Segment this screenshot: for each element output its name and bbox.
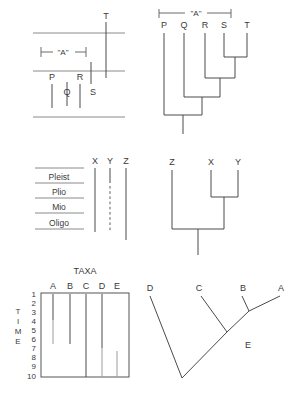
tip-label-r: R [202, 20, 209, 30]
epoch-label-pleist: Pleist [49, 172, 70, 182]
column-label-e: E [114, 281, 120, 291]
epoch-label-mio: Mio [52, 202, 66, 212]
tip-labels-zxy: Z X Y [169, 157, 241, 167]
taxon-label-y: Y [107, 156, 113, 166]
branch-root-to-node1 [182, 332, 227, 378]
branch-e-to-b [242, 296, 249, 311]
epoch-label-oligo: Oligo [49, 218, 69, 228]
chart-title: TAXA [74, 266, 97, 276]
panel-a-canvas: "A" P Q R S T [0, 0, 146, 140]
diagonal-tip-labels: D C B A [147, 283, 284, 293]
taxon-label-s: S [90, 87, 96, 97]
tip-label-a: A [278, 283, 284, 293]
column-label-b: B [67, 281, 73, 291]
time-tick-4: 4 [32, 317, 37, 326]
column-label-a: A [50, 281, 56, 291]
panel-f-canvas: D C B A E [146, 260, 292, 413]
panel-cladogram-zxy: Z X Y [146, 140, 292, 260]
epoch-labels: Pleist Plio Mio Oligo [49, 172, 70, 228]
tip-label-c: C [196, 283, 203, 293]
column-label-d: D [99, 281, 106, 291]
time-axis-letter-t: T [16, 307, 21, 316]
time-axis-letter-m: M [15, 327, 22, 336]
tip-label-y: Y [235, 157, 241, 167]
panel-cladogram-pqrst: "A" P Q R S T [146, 0, 292, 140]
tip-label-d: D [147, 283, 154, 293]
taxon-labels-xyz: X Y Z [92, 156, 129, 166]
column-labels: A B C D E [50, 281, 120, 291]
time-tick-10: 10 [27, 372, 36, 381]
taxon-label-z: Z [123, 156, 129, 166]
branch-node1-to-c [201, 296, 227, 332]
tip-label-t: T [244, 20, 250, 30]
panel-epoch-ranges-xyz: Pleist Plio Mio Oligo X Y Z [0, 140, 146, 260]
time-tick-7: 7 [32, 344, 37, 353]
taxon-label-t: T [103, 11, 109, 21]
time-tick-3: 3 [32, 308, 37, 317]
figure-root: "A" P Q R S T [0, 0, 292, 413]
bracket-a-clado-label: "A" [190, 9, 201, 18]
time-tick-5: 5 [32, 326, 37, 335]
tip-label-z: Z [169, 157, 175, 167]
range-lines-pqrst [52, 22, 106, 108]
time-tick-labels: 1 2 3 4 5 6 7 8 9 10 [27, 290, 36, 381]
time-tick-2: 2 [32, 299, 37, 308]
branch-root-to-d [150, 296, 182, 378]
taxon-label-x: X [92, 156, 98, 166]
panel-diagonal-phylogeny-abcde: D C B A E [146, 260, 292, 413]
epoch-label-plio: Plio [52, 187, 66, 197]
chart-plot-box [41, 293, 129, 377]
taxon-label-q: Q [63, 87, 70, 97]
internal-node-label-e: E [245, 340, 251, 350]
taxon-label-p: P [49, 72, 55, 82]
time-axis-letter-i: I [17, 317, 19, 326]
time-axis-letter-e: E [15, 337, 20, 346]
time-tick-8: 8 [32, 353, 37, 362]
diagonal-branches [150, 296, 280, 378]
taxon-label-r: R [77, 72, 84, 82]
panel-d-canvas: Z X Y [146, 140, 292, 260]
panel-stratigraphic-ranges-pqrst: "A" P Q R S T [0, 0, 146, 140]
bracket-a-clado: "A" [159, 5, 231, 18]
taxon-range-bars [53, 294, 117, 377]
cladogram-branches-pqrst [164, 33, 247, 134]
panel-c-canvas: Pleist Plio Mio Oligo X Y Z [0, 140, 146, 260]
time-tick-1: 1 [32, 290, 37, 299]
time-tick-9: 9 [32, 362, 37, 371]
panel-taxa-time-chart: TAXA T I M E 1 2 3 4 5 6 7 8 9 10 A [0, 260, 146, 413]
tip-label-q: Q [180, 20, 187, 30]
branch-e-to-a [249, 296, 280, 311]
cladogram-branches-zxy [172, 170, 238, 255]
tip-label-s: S [221, 20, 227, 30]
panel-b-canvas: "A" P Q R S T [146, 0, 292, 140]
tip-label-b: B [240, 283, 246, 293]
tip-labels-pqrst: P Q R S T [161, 20, 250, 30]
time-tick-6: 6 [32, 335, 37, 344]
tip-label-x: X [208, 157, 214, 167]
branch-node1-to-e [227, 311, 249, 332]
column-label-c: C [83, 281, 90, 291]
panel-e-canvas: TAXA T I M E 1 2 3 4 5 6 7 8 9 10 A [0, 260, 146, 413]
bracket-a: "A" [41, 44, 86, 57]
time-axis-label: T I M E [15, 307, 22, 346]
bracket-a-label: "A" [57, 48, 68, 57]
tip-label-p: P [161, 20, 167, 30]
range-lines-xyz [95, 168, 126, 240]
